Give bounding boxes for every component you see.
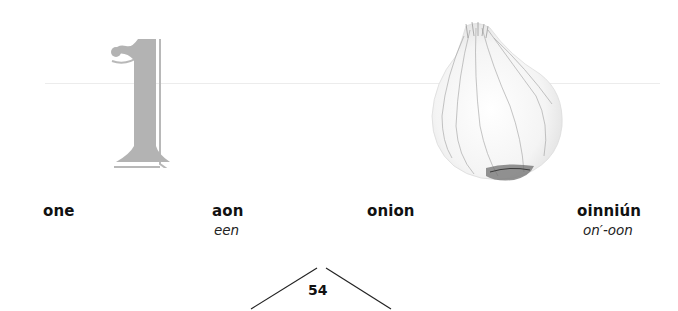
irish-word-oinniun: oinniún <box>577 202 641 220</box>
numeral-one-illustration <box>104 36 176 168</box>
english-word-onion: onion <box>367 202 415 220</box>
english-word-one: one <box>43 202 74 220</box>
pronunciation-on-oon: on′-oon <box>583 222 633 238</box>
pronunciation-een: een <box>214 222 239 238</box>
chevron-tent-decoration <box>0 0 678 311</box>
onion-illustration <box>418 16 568 186</box>
irish-word-aon: aon <box>212 202 243 220</box>
page-number: 54 <box>308 282 327 298</box>
dictionary-page: one aon een onion oinniún on′-oon 54 <box>0 0 678 311</box>
